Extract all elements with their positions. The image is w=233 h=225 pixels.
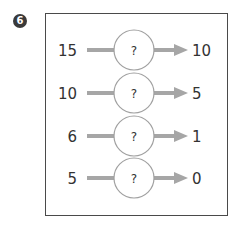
output-value: 1 (192, 128, 202, 146)
arrow-head-icon (174, 44, 188, 56)
function-machine-diagram: 15?1010?56?15?0 (0, 0, 233, 225)
output-value: 10 (192, 42, 211, 60)
function-row: 5?0 (67, 158, 201, 198)
output-value: 5 (192, 85, 202, 103)
input-value: 6 (67, 128, 77, 146)
arrow-head-icon (174, 172, 188, 184)
input-value: 15 (58, 42, 77, 60)
unknown-operator: ? (131, 172, 137, 186)
arrow-head-icon (174, 130, 188, 142)
function-row: 6?1 (67, 116, 201, 156)
unknown-operator: ? (131, 130, 137, 144)
unknown-operator: ? (131, 87, 137, 101)
input-value: 10 (58, 85, 77, 103)
function-row: 10?5 (58, 73, 202, 113)
arrow-head-icon (174, 87, 188, 99)
unknown-operator: ? (131, 44, 137, 58)
output-value: 0 (192, 170, 202, 188)
function-row: 15?10 (58, 30, 211, 70)
input-value: 5 (67, 170, 77, 188)
